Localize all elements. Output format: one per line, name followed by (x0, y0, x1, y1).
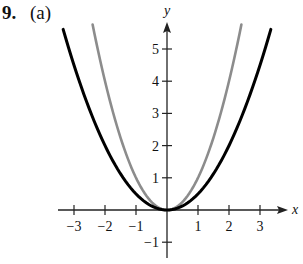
x-tick-label: −1 (129, 219, 144, 234)
y-tick-label: 1 (152, 171, 159, 186)
y-tick-label: 2 (152, 139, 159, 154)
parabola-chart: xy −3−2−1123−112345 (0, 0, 303, 264)
x-tick-label: 3 (257, 219, 264, 234)
x-tick-label: 1 (195, 219, 202, 234)
y-tick-label: −1 (144, 235, 159, 250)
x-tick-label: 2 (226, 219, 233, 234)
y-tick-label: 3 (152, 106, 159, 121)
y-tick-label: 4 (152, 74, 159, 89)
x-tick-label: −3 (67, 219, 82, 234)
y-axis-label: y (162, 3, 171, 18)
y-tick-label: 5 (152, 42, 159, 57)
x-axis-label: x (291, 202, 299, 217)
ticks: −3−2−1123−112345 (67, 42, 264, 250)
x-tick-label: −2 (98, 219, 113, 234)
